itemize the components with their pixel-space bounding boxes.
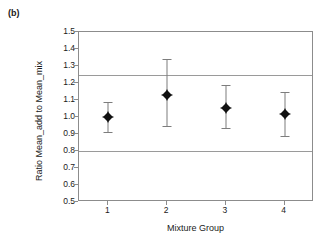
panel-label: (b) <box>8 8 20 18</box>
x-axis-tick-label: 1 <box>105 206 110 215</box>
x-axis-tick-label: 4 <box>281 206 286 215</box>
figure-panel-b: (b) Ratio Mean_add to Mean_mix Mixture G… <box>0 0 328 244</box>
error-bar-cap-upper <box>104 102 113 103</box>
data-marker <box>280 109 290 119</box>
error-bar-cap-lower <box>280 136 289 137</box>
plot-inner <box>79 32 312 200</box>
error-bar-cap-upper <box>163 59 172 60</box>
error-bar-cap-lower <box>163 126 172 127</box>
error-bar-cap-upper <box>221 85 230 86</box>
data-point-group-3 <box>216 32 236 202</box>
data-point-group-1 <box>98 32 118 202</box>
x-axis-tick-label: 2 <box>164 206 169 215</box>
plot-area <box>78 31 313 201</box>
error-bar-cap-lower <box>104 132 113 133</box>
x-axis-tick-label: 3 <box>223 206 228 215</box>
y-axis-tick-mark <box>74 201 78 202</box>
data-marker <box>103 112 113 122</box>
data-marker <box>221 103 231 113</box>
error-bar-cap-lower <box>221 128 230 129</box>
y-axis-title: Ratio Mean_add to Mean_mix <box>34 36 44 206</box>
data-marker <box>162 90 172 100</box>
x-axis-title: Mixture Group <box>78 223 313 233</box>
data-point-group-4 <box>275 32 295 202</box>
data-point-group-2 <box>157 32 177 202</box>
error-bar-cap-upper <box>280 92 289 93</box>
